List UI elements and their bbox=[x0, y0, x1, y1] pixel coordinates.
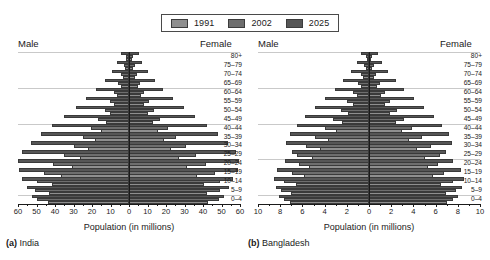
age-group-label: 5–9 bbox=[471, 187, 482, 194]
x-tick-label: 30 bbox=[180, 208, 188, 216]
x-minor-tick bbox=[447, 204, 448, 206]
age-group-label: 80+ bbox=[471, 53, 482, 60]
pyramid-india bbox=[18, 52, 240, 204]
caption-text: Bangladesh bbox=[262, 238, 310, 248]
x-axis-bangladesh: 1086420246810 bbox=[258, 204, 480, 205]
age-group-label: 35–39 bbox=[464, 134, 482, 141]
age-group-label: 45–49 bbox=[224, 116, 242, 123]
x-minor-tick bbox=[64, 204, 65, 206]
age-group-label: 35–39 bbox=[224, 134, 242, 141]
x-tick-label: 6 bbox=[433, 208, 437, 216]
x-tick-label: 2 bbox=[345, 208, 349, 216]
legend-swatch-1991 bbox=[171, 19, 188, 28]
age-group-label: 40–44 bbox=[464, 125, 482, 132]
x-tick-label: 4 bbox=[411, 208, 415, 216]
x-tick-label: 0 bbox=[367, 208, 371, 216]
x-minor-tick bbox=[402, 204, 403, 206]
center-axis-line bbox=[129, 52, 130, 204]
figure-root: 1991 2002 2025 Male Female Male Female 8… bbox=[0, 0, 490, 260]
age-group-label: 25–29 bbox=[464, 151, 482, 158]
legend-swatch-2002 bbox=[228, 19, 245, 28]
x-minor-tick bbox=[212, 204, 213, 206]
x-tick-label: 40 bbox=[199, 208, 207, 216]
x-tick-label: 0 bbox=[127, 208, 131, 216]
age-group-label: 15–19 bbox=[224, 169, 242, 176]
female-label-india: Female bbox=[200, 38, 232, 49]
x-tick-label: 40 bbox=[51, 208, 59, 216]
age-group-label: 15–19 bbox=[464, 169, 482, 176]
legend-item-1991: 1991 bbox=[171, 19, 214, 28]
legend-item-2025: 2025 bbox=[286, 19, 329, 28]
x-tick-label: 10 bbox=[476, 208, 484, 216]
age-group-label: 60–64 bbox=[224, 89, 242, 96]
x-tick-label: 10 bbox=[143, 208, 151, 216]
center-axis-line bbox=[369, 52, 370, 204]
x-tick-label: 10 bbox=[106, 208, 114, 216]
x-tick-label: 60 bbox=[236, 208, 244, 216]
x-minor-tick bbox=[269, 204, 270, 206]
x-minor-tick bbox=[358, 204, 359, 206]
age-group-label: 65–69 bbox=[464, 80, 482, 87]
x-tick-label: 10 bbox=[254, 208, 262, 216]
age-group-label: 55–59 bbox=[224, 98, 242, 105]
age-group-label: 40–44 bbox=[224, 125, 242, 132]
x-minor-tick bbox=[157, 204, 158, 206]
caption-prefix: (b) bbox=[248, 238, 260, 248]
age-group-label: 50–54 bbox=[224, 107, 242, 114]
age-group-label: 65–69 bbox=[224, 80, 242, 87]
age-group-label: 0–4 bbox=[231, 196, 242, 203]
x-tick-label: 50 bbox=[217, 208, 225, 216]
x-tick-label: 50 bbox=[32, 208, 40, 216]
plot-area-india bbox=[18, 52, 240, 204]
x-axis-title-bangladesh: Population (in millions) bbox=[258, 222, 480, 232]
caption-bangladesh: (b) Bangladesh bbox=[248, 238, 310, 248]
x-minor-tick bbox=[194, 204, 195, 206]
x-minor-tick bbox=[380, 204, 381, 206]
age-group-label: 70–74 bbox=[224, 71, 242, 78]
x-axis-india: 6050403020100102030405060 bbox=[18, 204, 240, 205]
age-axis-bangladesh: 80+75–7970–7465–6960–6455–5950–5445–4940… bbox=[452, 52, 482, 204]
x-tick-label: 6 bbox=[300, 208, 304, 216]
x-minor-tick bbox=[27, 204, 28, 206]
x-minor-tick bbox=[314, 204, 315, 206]
x-axis-title-india: Population (in millions) bbox=[18, 222, 240, 232]
x-minor-tick bbox=[469, 204, 470, 206]
x-minor-tick bbox=[231, 204, 232, 206]
x-minor-tick bbox=[291, 204, 292, 206]
age-group-label: 60–64 bbox=[464, 89, 482, 96]
x-tick-label: 2 bbox=[389, 208, 393, 216]
age-group-label: 25–29 bbox=[224, 151, 242, 158]
x-minor-tick bbox=[83, 204, 84, 206]
age-group-label: 75–79 bbox=[224, 62, 242, 69]
plot-area-bangladesh bbox=[258, 52, 480, 204]
age-group-label: 5–9 bbox=[231, 187, 242, 194]
x-tick-label: 8 bbox=[456, 208, 460, 216]
x-minor-tick bbox=[101, 204, 102, 206]
legend-swatch-2025 bbox=[286, 19, 303, 28]
x-minor-tick bbox=[120, 204, 121, 206]
age-group-label: 10–14 bbox=[464, 178, 482, 185]
chart-legend: 1991 2002 2025 bbox=[161, 14, 339, 32]
caption-text: India bbox=[20, 238, 40, 248]
x-tick-label: 60 bbox=[14, 208, 22, 216]
age-group-label: 45–49 bbox=[464, 116, 482, 123]
male-label-india: Male bbox=[18, 38, 39, 49]
female-label-bangladesh: Female bbox=[440, 38, 472, 49]
age-group-label: 50–54 bbox=[464, 107, 482, 114]
x-tick-label: 4 bbox=[322, 208, 326, 216]
age-group-label: 70–74 bbox=[464, 71, 482, 78]
x-tick-label: 20 bbox=[162, 208, 170, 216]
x-minor-tick bbox=[46, 204, 47, 206]
age-group-label: 20–24 bbox=[224, 160, 242, 167]
age-group-label: 30–34 bbox=[464, 142, 482, 149]
age-group-label: 55–59 bbox=[464, 98, 482, 105]
age-group-label: 80+ bbox=[231, 53, 242, 60]
x-tick-label: 8 bbox=[278, 208, 282, 216]
x-minor-tick bbox=[175, 204, 176, 206]
age-group-label: 0–4 bbox=[471, 196, 482, 203]
caption-prefix: (a) bbox=[6, 238, 17, 248]
age-group-label: 10–14 bbox=[224, 178, 242, 185]
legend-label-1991: 1991 bbox=[194, 19, 214, 28]
x-minor-tick bbox=[138, 204, 139, 206]
x-minor-tick bbox=[425, 204, 426, 206]
